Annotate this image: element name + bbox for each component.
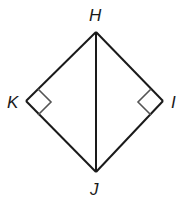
segment-HI bbox=[96, 32, 163, 101]
vertex-label-H: H bbox=[89, 6, 102, 25]
vertex-label-J: J bbox=[89, 180, 99, 199]
kite-diagram: H K I J bbox=[0, 0, 187, 211]
vertex-label-I: I bbox=[171, 93, 176, 112]
segment-IJ bbox=[96, 101, 163, 172]
right-angle-marker-I bbox=[138, 89, 151, 115]
segment-KJ bbox=[26, 101, 96, 172]
segment-HK bbox=[26, 32, 96, 101]
vertex-label-K: K bbox=[7, 93, 19, 112]
right-angle-marker-K bbox=[38, 89, 51, 115]
